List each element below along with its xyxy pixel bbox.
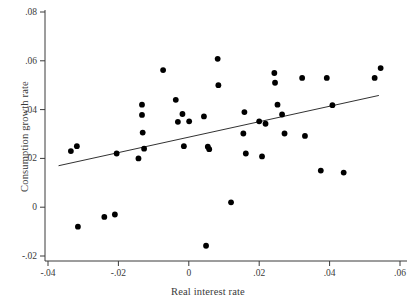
data-point	[180, 111, 186, 117]
data-point	[173, 97, 179, 103]
data-point	[240, 131, 246, 137]
data-point	[203, 243, 209, 249]
data-point	[140, 130, 146, 136]
data-point	[275, 102, 281, 108]
data-point	[330, 102, 336, 108]
data-point	[282, 131, 288, 137]
x-axis-ticks	[48, 261, 400, 266]
data-point	[242, 109, 248, 115]
data-point	[139, 112, 145, 118]
data-point	[271, 70, 277, 76]
data-point	[206, 146, 212, 152]
data-point	[160, 67, 166, 73]
data-point	[299, 75, 305, 81]
x-tick-label: .02	[253, 268, 265, 278]
x-axis-title: Real interest rate	[0, 286, 416, 297]
data-point	[181, 143, 187, 149]
scatter-plot	[0, 0, 416, 301]
data-point	[215, 56, 221, 62]
x-tick-label: -.04	[40, 268, 55, 278]
data-point	[141, 146, 147, 152]
data-point	[186, 118, 192, 124]
data-point	[114, 151, 120, 157]
data-points	[68, 56, 384, 249]
data-point	[215, 82, 221, 88]
data-point	[279, 112, 285, 118]
data-point	[272, 80, 278, 86]
data-point	[259, 154, 265, 160]
x-tick-label: 0	[186, 268, 191, 278]
data-point	[318, 168, 324, 174]
x-tick-label: .06	[394, 268, 406, 278]
data-point	[378, 65, 384, 71]
axes	[45, 10, 407, 261]
data-point	[341, 170, 347, 176]
x-tick-label: .04	[324, 268, 336, 278]
y-tick-label: -.02	[4, 251, 37, 261]
data-point	[256, 118, 262, 124]
x-tick-label: -.02	[111, 268, 126, 278]
data-point	[68, 148, 74, 154]
data-point	[75, 224, 81, 230]
data-point	[74, 143, 80, 149]
data-point	[302, 133, 308, 139]
data-point	[372, 75, 378, 81]
data-point	[112, 212, 118, 218]
data-point	[201, 114, 207, 120]
data-point	[101, 214, 107, 220]
y-axis-title: Consumption growth rate	[19, 27, 30, 247]
y-axis-ticks	[40, 12, 45, 256]
data-point	[324, 75, 330, 81]
data-point	[175, 119, 181, 125]
data-point	[243, 151, 249, 157]
y-tick-label: .08	[4, 7, 37, 17]
data-point	[263, 121, 269, 127]
data-point	[139, 102, 145, 108]
data-point	[136, 156, 142, 162]
figure-container: -.04-.020.02.04.06 -.020.02.04.06.08 Rea…	[0, 0, 416, 301]
data-point	[228, 199, 234, 205]
